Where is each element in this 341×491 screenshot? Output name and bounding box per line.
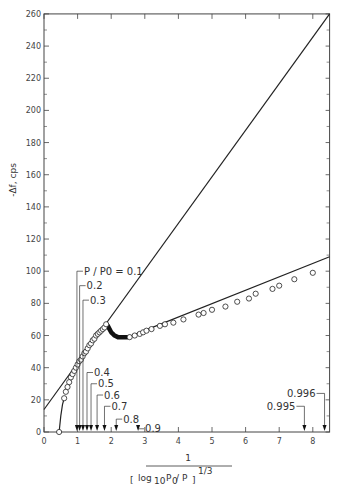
data-point [292, 277, 297, 282]
annotation-label: 0.8 [123, 414, 139, 425]
x-axis-title: 1 [ log 10 P 0 / P ] 1/3 [130, 453, 232, 486]
x-tick-label: 6 [243, 437, 248, 446]
adsorption-chart: 020406080100120140160180200220240260 012… [0, 0, 341, 491]
data-point [57, 429, 62, 434]
y-tick-label: 120 [26, 235, 41, 244]
annotation-label: 0.4 [94, 367, 110, 378]
data-point [162, 322, 167, 327]
data-point [104, 322, 109, 327]
transition-band [106, 324, 128, 337]
data-point [235, 299, 240, 304]
x-axis-title-sub10: 10 [154, 476, 166, 486]
annotation-label: 0.995 [267, 401, 296, 412]
data-point [63, 389, 68, 394]
y-tick-label: 100 [26, 267, 41, 276]
data-point [127, 335, 132, 340]
axes-box [44, 14, 330, 432]
data-point [144, 328, 149, 333]
y-tick-label: 200 [26, 106, 41, 115]
data-point [246, 296, 251, 301]
data-point [149, 326, 154, 331]
y-tick-label: 40 [31, 364, 41, 373]
plot-frame [44, 14, 330, 432]
fit-line [59, 398, 64, 432]
x-axis-title-exponent: 1/3 [198, 466, 212, 476]
y-tick-label: 220 [26, 74, 41, 83]
annotation-label: P / P0 = 0.1 [84, 266, 143, 277]
arrow-icon [89, 425, 93, 431]
x-tick-label: 4 [176, 437, 181, 446]
annotation-label: 0.2 [87, 280, 103, 291]
arrow-icon [323, 425, 327, 431]
x-tick-label: 1 [75, 437, 80, 446]
annotation-label: 0.6 [104, 390, 120, 401]
data-point [223, 304, 228, 309]
y-tick-label: 180 [26, 139, 41, 148]
x-axis-title-rest: / P [176, 473, 188, 483]
arrow-icon [136, 425, 140, 431]
data-point [181, 317, 186, 322]
x-axis-title-log: log [138, 473, 152, 483]
data-point [171, 320, 176, 325]
x-axis-ticks: 012345678 [41, 14, 315, 446]
arrow-icon [302, 425, 306, 431]
y-tick-label: 0 [36, 428, 41, 437]
arrow-icon [78, 425, 82, 431]
y-tick-label: 160 [26, 171, 41, 180]
data-point [277, 283, 282, 288]
y-tick-label: 80 [31, 299, 41, 308]
data-point [132, 333, 137, 338]
x-tick-label: 2 [109, 437, 114, 446]
data-point [67, 380, 72, 385]
x-axis-title-numerator: 1 [185, 453, 191, 463]
y-tick-label: 240 [26, 42, 41, 51]
y-axis-title: -Δf, cps [8, 163, 18, 197]
arrow-icon [95, 425, 99, 431]
arrow-icon [85, 425, 89, 431]
data-point [62, 396, 67, 401]
data-point [310, 270, 315, 275]
x-tick-label: 5 [209, 437, 214, 446]
annotation-label: 0.9 [145, 423, 161, 434]
data-point [253, 291, 258, 296]
arrow-icon [81, 425, 85, 431]
y-tick-label: 140 [26, 203, 41, 212]
y-tick-label: 20 [31, 396, 41, 405]
arrow-icon [102, 425, 106, 431]
x-tick-label: 3 [142, 437, 147, 446]
data-point [201, 310, 206, 315]
data-point [65, 384, 70, 389]
annotation-label: 0.3 [90, 295, 106, 306]
annotation-label: 0.996 [287, 388, 316, 399]
y-tick-label: 260 [26, 10, 41, 19]
annotation-label: 0.5 [98, 378, 114, 389]
bracket-right: ] [192, 475, 196, 485]
bracket-left: [ [130, 475, 134, 485]
data-point [157, 323, 162, 328]
annotation-label: 0.7 [111, 401, 127, 412]
x-tick-label: 0 [41, 437, 46, 446]
x-tick-label: 7 [277, 437, 282, 446]
pressure-annotations: P / P0 = 0.10.20.30.40.50.60.70.80.90.99… [75, 266, 327, 435]
data-point [196, 312, 201, 317]
y-tick-label: 60 [31, 332, 41, 341]
arrow-icon [114, 425, 118, 431]
data-point [209, 307, 214, 312]
data-point [270, 286, 275, 291]
x-tick-label: 8 [310, 437, 315, 446]
fit-lines [44, 14, 330, 432]
